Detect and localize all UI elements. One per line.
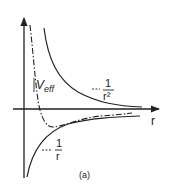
inverse-square-numerator: 1 [105,77,111,89]
inverse-square-curve [44,28,142,107]
negative-inverse-numerator: 1 [56,137,62,149]
effective-potential-diagram: Veff 1 r² 1 r r (a) [0,0,188,190]
effective-potential-curve [30,25,132,127]
negative-inverse-curve [27,116,140,177]
veff-label: Veff [36,78,54,94]
veff-label-main: V [36,78,44,92]
negative-inverse-denominator: r [56,150,60,162]
figure-caption: (a) [79,170,90,180]
inverse-square-denominator: r² [103,90,110,102]
veff-label-sub: eff [44,84,54,94]
x-axis-label: r [151,114,155,128]
diagram-canvas [0,0,188,190]
